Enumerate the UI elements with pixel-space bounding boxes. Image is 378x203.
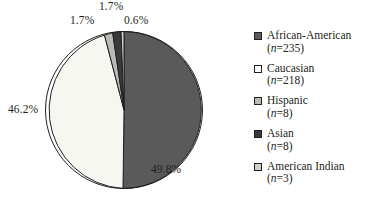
legend-label-text: Hispanic [267, 94, 308, 106]
legend-label-african-american: African-American (n=235) [267, 29, 351, 54]
legend-item-hispanic: Hispanic (n=8) [254, 94, 378, 119]
legend-item-african-american: African-American (n=235) [254, 29, 378, 54]
legend-label-american-indian: American Indian (n=3) [267, 160, 345, 185]
legend-label-text: African-American [267, 29, 351, 41]
legend-count-african-american: (n=235) [267, 42, 351, 55]
legend-swatch-african-american [254, 32, 262, 40]
legend-item-asian: Asian (n=8) [254, 127, 378, 152]
legend-item-american-indian: American Indian (n=3) [254, 160, 378, 185]
legend-label-text: American Indian [267, 160, 345, 172]
legend: African-American (n=235) Caucasian (n=21… [254, 29, 378, 192]
data-label-caucasian: 46.2% [8, 103, 38, 115]
legend-label-text: Caucasian [267, 62, 314, 74]
legend-swatch-caucasian [254, 65, 262, 73]
legend-swatch-asian [254, 130, 262, 138]
legend-count-hispanic: (n=8) [267, 107, 308, 120]
data-label-asian: 0.6% [124, 14, 148, 26]
data-label-hispanic: 1.7% [70, 14, 94, 26]
pie-chart-figure: 1.7% 1.7% 0.6% 46.2% 49.8% [0, 0, 224, 203]
data-label-american-indian: 1.7% [99, 0, 123, 12]
legend-count-asian: (n=8) [267, 140, 294, 153]
legend-swatch-american-indian [254, 163, 262, 171]
legend-item-caucasian: Caucasian (n=218) [254, 62, 378, 87]
legend-swatch-hispanic [254, 97, 262, 105]
legend-count-caucasian: (n=218) [267, 74, 314, 87]
data-label-african-american: 49.8% [151, 163, 181, 175]
legend-label-hispanic: Hispanic (n=8) [267, 94, 308, 119]
legend-count-american-indian: (n=3) [267, 172, 345, 185]
legend-label-text: Asian [267, 127, 294, 139]
legend-label-asian: Asian (n=8) [267, 127, 294, 152]
legend-label-caucasian: Caucasian (n=218) [267, 62, 314, 87]
